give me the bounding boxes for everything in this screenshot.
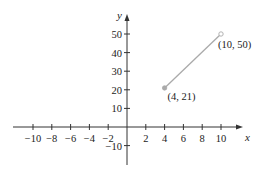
x-tick-label: 6	[181, 133, 186, 144]
y-tick-label: 30	[112, 66, 123, 77]
line-segment	[165, 34, 221, 88]
y-tick-label: 40	[112, 48, 123, 59]
point-label: (10, 50)	[218, 39, 252, 51]
x-tick-label: −6	[65, 133, 76, 144]
y-tick-label: 20	[112, 85, 123, 96]
x-tick-label: −8	[46, 133, 57, 144]
open-endpoint-marker	[219, 32, 223, 36]
plot-area: (4, 21)(10, 50)	[162, 32, 251, 103]
chart-svg: −10−8−6−4−22468105040302010−10 (4, 21)(1…	[0, 0, 260, 171]
y-tick-label: 10	[112, 103, 123, 114]
y-tick-label: −10	[106, 141, 122, 152]
x-tick-label: 10	[216, 133, 227, 144]
y-axis-arrow-icon	[125, 14, 130, 21]
x-axis-arrow-icon	[236, 125, 243, 130]
x-tick-label: −10	[25, 133, 41, 144]
point-label: (4, 21)	[168, 91, 196, 103]
y-tick-label: 50	[112, 29, 123, 40]
chart: −10−8−6−4−22468105040302010−10 (4, 21)(1…	[0, 0, 260, 171]
axes: −10−8−6−4−22468105040302010−10	[13, 14, 243, 165]
y-axis-label: y	[116, 9, 122, 21]
closed-endpoint-marker	[162, 86, 166, 90]
x-tick-label: 8	[200, 133, 205, 144]
x-tick-label: −4	[84, 133, 96, 144]
x-tick-label: 2	[143, 133, 148, 144]
x-tick-label: 4	[162, 133, 168, 144]
x-axis-label: x	[244, 131, 250, 143]
